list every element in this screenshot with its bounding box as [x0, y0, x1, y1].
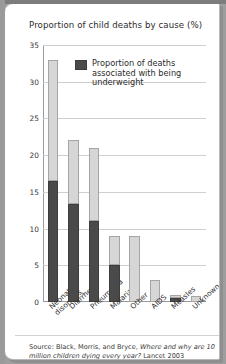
bar-diarrhea — [68, 140, 79, 302]
bar-malaria — [109, 236, 120, 302]
chart-legend: Proportion of deaths associated with bei… — [75, 59, 219, 88]
y-tick-label-30: 30 — [30, 77, 39, 86]
bar-pneumonia — [89, 148, 100, 302]
source-prefix: Source: Black, Morris, and Bryce, — [29, 343, 140, 351]
y-tick-label-25: 25 — [30, 114, 39, 123]
y-tick-label-5: 5 — [34, 261, 39, 270]
y-tick-label-0: 0 — [34, 298, 39, 307]
source-divider — [15, 335, 220, 336]
bar-segment-total — [89, 148, 100, 221]
page-background: Proportion of child deaths by cause (%) … — [0, 0, 226, 364]
bar-segment-underweight — [68, 204, 79, 302]
source-suffix: Lancet 2003 — [141, 352, 184, 360]
bar-neonatal-disorders — [48, 60, 59, 302]
bar-segment-underweight — [48, 181, 59, 302]
bar-other — [129, 236, 140, 302]
bar-segment-total — [48, 60, 59, 181]
source-note: Source: Black, Morris, and Bryce, Where … — [29, 343, 220, 360]
figure-card: Proportion of child deaths by cause (%) … — [4, 3, 220, 360]
y-tick-label-15: 15 — [30, 187, 39, 196]
legend-swatch-underweight — [75, 60, 87, 70]
y-tick-label-20: 20 — [30, 151, 39, 160]
legend-label-underweight: Proportion of deaths associated with bei… — [92, 59, 219, 88]
bar-segment-total — [129, 236, 140, 302]
bar-segment-total — [109, 236, 120, 265]
left-edge-strip — [0, 0, 5, 364]
chart-title: Proportion of child deaths by cause (%) — [29, 20, 202, 30]
top-edge-strip — [0, 0, 226, 4]
y-tick-label-35: 35 — [30, 41, 39, 50]
bar-segment-total — [68, 140, 79, 203]
bar-segment-underweight — [89, 221, 100, 303]
y-tick-label-10: 10 — [30, 224, 39, 233]
